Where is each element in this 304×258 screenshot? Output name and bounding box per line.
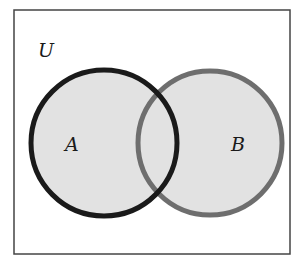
universe-label: U	[38, 39, 55, 61]
set-a-label: A	[63, 133, 79, 155]
venn-diagram: U A B	[0, 0, 304, 258]
set-b-label: B	[230, 133, 245, 155]
